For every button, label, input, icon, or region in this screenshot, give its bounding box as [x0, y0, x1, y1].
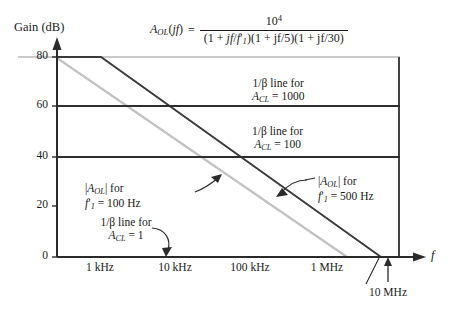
equation-lhs: AOL(jf): [150, 23, 183, 38]
annotation-aol-500hz: |AOL| for f′1 = 500 Hz: [318, 175, 374, 205]
x-tick-label-10khz: 10 kHz: [139, 261, 211, 274]
equation-numerator: 104: [200, 14, 348, 31]
annotation-aol-100hz-line2: f′1 = 100 Hz: [85, 197, 141, 212]
ten-mhz-leader: [366, 258, 379, 284]
aol-100hz-leader: [195, 178, 218, 192]
den-part1-open: (1 +: [204, 31, 227, 45]
x-tick-label-100khz: 100 kHz: [211, 261, 289, 274]
y-tick-label-80: 80: [22, 49, 48, 62]
annotation-beta-line-1000: 1/β line for ACL = 1000: [252, 77, 304, 105]
aol-500hz-leader-tail: [305, 178, 315, 180]
annotation-aol-100hz-line1: |AOL| for: [85, 182, 141, 197]
annotation-aol-500hz-sub: OL: [327, 180, 338, 189]
equation-equals: =: [188, 24, 195, 38]
annotation-beta-1000-sub: CL: [259, 96, 269, 105]
annotation-aol-500hz-value: = 500 Hz: [328, 190, 374, 202]
y-tick-label-0: 0: [22, 249, 48, 262]
annotation-beta-100-line2: ACL = 100: [252, 138, 303, 153]
annotation-beta-1000-line2: ACL = 1000: [252, 90, 304, 105]
equation-fraction: 104 (1 + jf/f′1)(1 + jf/5)(1 + jf/30): [200, 14, 348, 47]
beta-line-1-arrowhead: [162, 247, 172, 257]
annotation-beta-line-100: 1/β line for ACL = 100: [252, 125, 303, 153]
annotation-aol-500hz-line2: f′1 = 500 Hz: [318, 190, 374, 205]
y-tick-label-60: 60: [22, 98, 48, 111]
equation-denominator: (1 + jf/f′1)(1 + jf/5)(1 + jf/30): [200, 31, 348, 47]
y-tick-label-20: 20: [22, 198, 48, 211]
annotation-beta-100-sub: CL: [261, 144, 271, 153]
annotation-aol-500hz-line1: |AOL| for: [318, 175, 374, 190]
equation-lhs-sub: OL: [157, 27, 168, 37]
annotation-aol-100hz-for: for: [107, 182, 123, 194]
ten-mhz-pointer-head: [384, 257, 392, 266]
x-tick-label-1mhz: 1 MHz: [291, 261, 363, 274]
x-axis-arrowhead: [413, 253, 426, 262]
annotation-beta-1000-value: = 1000: [269, 90, 304, 102]
x-tick-label-10mhz: 10 MHz: [352, 286, 424, 299]
annotation-beta-1000-line1: 1/β line for: [252, 77, 304, 90]
annotation-beta-1000-A: A: [252, 90, 259, 102]
x-tick-label-1khz: 1 kHz: [64, 261, 136, 274]
transfer-function-equation: AOL(jf) = 104 (1 + jf/f′1)(1 + jf/5)(1 +…: [150, 14, 348, 47]
annotation-aol-100hz-value: = 100 Hz: [95, 197, 141, 209]
annotation-beta-1-line1: 1/β line for: [66, 216, 186, 229]
den-part3: (1 + jf/30): [294, 31, 343, 45]
annotation-aol-500hz-for: for: [340, 175, 356, 187]
y-axis-arrowhead: [53, 37, 62, 50]
equation-numerator-exponent: 4: [278, 13, 282, 23]
y-axis-title: Gain (dB): [14, 20, 64, 34]
equation-lhs-paren-close: ): [179, 22, 183, 36]
annotation-beta-100-line1: 1/β line for: [252, 125, 303, 138]
annotation-aol-100hz-sub: OL: [94, 187, 105, 196]
aol-500hz-leader: [281, 180, 307, 193]
y-tick-label-40: 40: [22, 149, 48, 162]
annotation-beta-100-value: = 100: [271, 138, 301, 150]
annotation-aol-100hz: |AOL| for f′1 = 100 Hz: [85, 182, 141, 212]
annotation-beta-1-sub: CL: [115, 235, 125, 244]
equation-numerator-base: 10: [266, 14, 278, 28]
annotation-beta-line-1: 1/β line for ACL = 1: [66, 216, 186, 244]
den-part2: (1 + jf/5): [251, 31, 294, 45]
x-axis-title: f: [431, 248, 434, 262]
annotation-beta-1-value: = 1: [126, 229, 144, 241]
annotation-beta-1-line2: ACL = 1: [66, 229, 186, 244]
figure-container: Gain (dB) f 80 60 40 20 0 1 kHz 10 kHz 1…: [0, 0, 451, 313]
